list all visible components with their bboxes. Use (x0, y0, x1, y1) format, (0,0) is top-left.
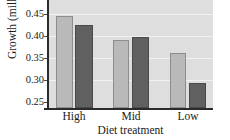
bar-high-dark (75, 25, 93, 108)
bar-high-light (56, 16, 73, 108)
y-tick-label: 0.25 (14, 96, 44, 107)
y-tick-label: 0.45 (14, 8, 44, 19)
y-axis-tick-labels: 0.45 0.40 0.35 0.30 0.25 (12, 0, 44, 140)
bar-low-light (170, 53, 186, 108)
y-axis-line (47, 0, 49, 109)
bar-mid-dark (132, 37, 149, 108)
y-tick-label: 0.40 (14, 30, 44, 41)
x-tick-label-low: Low (177, 110, 198, 122)
bar-chart-figure: Growth (millimeters) 0.45 0.40 0.35 0.30… (0, 0, 230, 140)
y-tick-label: 0.30 (14, 74, 44, 85)
y-tick-label: 0.35 (14, 52, 44, 63)
bar-low-dark (189, 83, 206, 108)
x-axis-title: Diet treatment (48, 124, 213, 136)
gridline (48, 14, 213, 15)
x-tick-label-mid: Mid (121, 110, 140, 122)
bar-mid-light (113, 40, 129, 108)
plot-area (48, 0, 213, 108)
x-tick-label-high: High (63, 110, 86, 122)
